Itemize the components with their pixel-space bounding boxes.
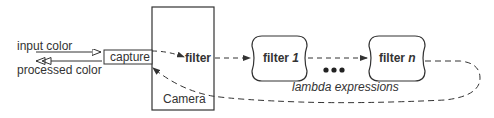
processed-color-label: processed color — [17, 63, 102, 77]
lambda-expressions-caption: lambda expressions — [292, 80, 399, 94]
filter-1-label: filter 1 — [263, 51, 299, 65]
input-color-label: input color — [17, 39, 72, 53]
filter-label: filter — [185, 51, 211, 65]
ellipsis-dots — [323, 67, 344, 72]
filter-n-label: filter n — [379, 51, 416, 65]
capture-label: capture — [110, 50, 150, 64]
pipeline-diagram: Camera input color processed color captu… — [0, 0, 494, 118]
camera-label: Camera — [163, 92, 206, 106]
